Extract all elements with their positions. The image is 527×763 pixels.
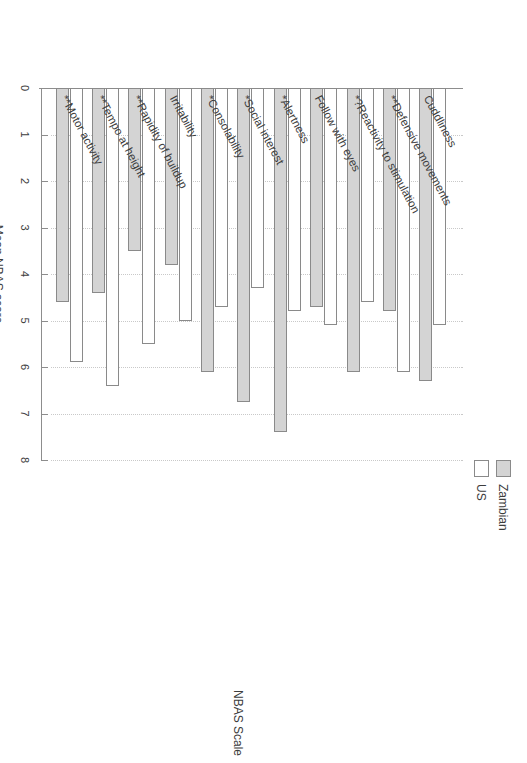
chart-legend: Zambian US	[467, 460, 511, 531]
axis-tick	[41, 181, 48, 182]
legend-label-us: US	[475, 484, 489, 501]
legend-label-zambian: Zambian	[497, 484, 511, 531]
bar-zambian	[56, 88, 69, 302]
axis-tick-label: 5	[19, 317, 31, 323]
bar-zambian	[201, 88, 214, 372]
legend-swatch-us	[474, 460, 489, 477]
axis-tick-label: 4	[19, 271, 31, 277]
axis-tick-label: 1	[19, 131, 31, 137]
chart-figure: Zambian US 012345678 Cuddliness**Defensi…	[0, 0, 527, 763]
axis-tick-label: 0	[19, 85, 31, 91]
axis-tick-label: 6	[19, 364, 31, 370]
bar-group	[201, 88, 228, 460]
axis-tick	[41, 460, 48, 461]
plot-area: 012345678 Cuddliness**Defensive movement…	[51, 88, 451, 460]
axis-tick	[41, 135, 48, 136]
axis-tick	[41, 228, 48, 229]
bar-zambian	[274, 88, 287, 432]
bar-zambian	[347, 88, 360, 372]
value-axis-title: Mean NBAS score	[0, 225, 5, 324]
axis-tick	[41, 321, 48, 322]
axis-tick	[41, 88, 48, 89]
category-axis-title: NBAS Scale	[231, 690, 245, 756]
axis-tick-label: 2	[19, 178, 31, 184]
gridline	[51, 460, 463, 462]
axis-tick	[41, 274, 48, 275]
bar-group	[165, 88, 192, 460]
bar-zambian	[383, 88, 396, 311]
bar-group	[310, 88, 337, 460]
rotated-chart-container: Zambian US 012345678 Cuddliness**Defensi…	[0, 0, 527, 763]
bar-zambian	[419, 88, 432, 381]
bar-group	[56, 88, 83, 460]
legend-item-zambian: Zambian	[496, 460, 511, 531]
bar-zambian	[92, 88, 105, 293]
axis-tick	[41, 414, 48, 415]
axis-tick-label: 3	[19, 224, 31, 230]
axis-tick	[41, 367, 48, 368]
legend-item-us: US	[474, 460, 489, 531]
bar-zambian	[310, 88, 323, 307]
axis-tick-label: 7	[19, 410, 31, 416]
bar-zambian	[238, 88, 251, 402]
bar-group	[274, 88, 301, 460]
axis-tick-label: 8	[19, 457, 31, 463]
legend-swatch-zambian	[496, 460, 511, 477]
